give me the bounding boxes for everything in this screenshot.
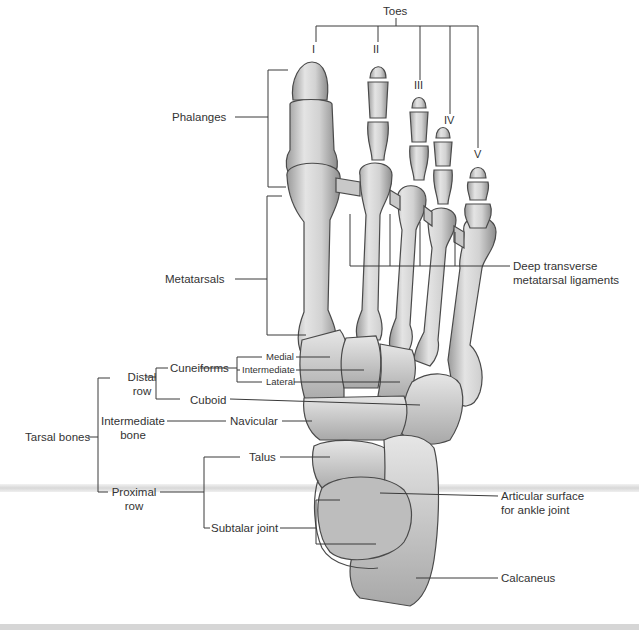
- label-distal-row: Distal row: [117, 370, 167, 398]
- label-medial-cuneiform: Medial: [266, 351, 294, 363]
- label-navicular: Navicular: [230, 414, 278, 428]
- label-articular-surface: Articular surface for ankle joint: [501, 489, 584, 517]
- toe-3-distal: [412, 98, 426, 109]
- label-subtalar-joint: Subtalar joint: [211, 521, 278, 535]
- medial-cuneiform: [300, 330, 348, 402]
- label-calcaneus: Calcaneus: [501, 571, 555, 585]
- label-lateral-cuneiform: Lateral: [266, 376, 295, 388]
- cuboid: [401, 374, 462, 444]
- toe-5-distal: [470, 168, 486, 179]
- metatarsal-1: [287, 163, 340, 350]
- metatarsal-2: [356, 163, 392, 340]
- toe-2-middle: [368, 82, 388, 118]
- toe-4-distal: [436, 128, 450, 139]
- label-metatarsals: Metatarsals: [165, 272, 224, 286]
- intermediate-cuneiform: [341, 336, 381, 388]
- ligament: [424, 206, 432, 226]
- label-talus: Talus: [249, 450, 276, 464]
- toe-label-5: V: [474, 148, 481, 160]
- label-intermediate-cuneiform: Intermediate: [242, 364, 295, 376]
- label-intermediate-bone: Intermediate bone: [100, 414, 166, 442]
- label-cuboid: Cuboid: [190, 393, 226, 407]
- toe-label-2: II: [373, 43, 379, 55]
- toe-label-4: IV: [444, 114, 454, 126]
- label-tarsal-bones: Tarsal bones: [25, 430, 90, 444]
- bones: [286, 62, 496, 606]
- toe-5-proximal: [465, 204, 492, 228]
- foot-bones-diagram: I II III IV V Toes Phalanges Metatarsals…: [0, 0, 639, 630]
- toe-1-proximal-phalanx: [286, 100, 337, 173]
- foot-illustration: [0, 0, 639, 630]
- toe-label-3: III: [414, 79, 423, 91]
- toe-label-1: I: [312, 43, 315, 55]
- label-toes: Toes: [383, 4, 407, 18]
- toe-2-distal: [370, 67, 386, 78]
- label-proximal-row: Proximal row: [106, 485, 162, 513]
- toe-3-proximal: [410, 146, 429, 180]
- toe-4-middle: [434, 142, 452, 166]
- toe-4-proximal: [434, 170, 453, 204]
- toe-1-distal-phalanx: [292, 62, 327, 100]
- toe-5-middle: [467, 182, 488, 200]
- label-deep-transverse-metatarsal-ligaments: Deep transverse metatarsal ligaments: [513, 259, 619, 287]
- label-cuneiforms: Cuneiforms: [170, 361, 229, 375]
- metatarsal-3: [389, 186, 426, 352]
- articular-surface: [318, 477, 412, 560]
- toe-3-middle: [410, 112, 428, 142]
- label-phalanges: Phalanges: [172, 110, 226, 124]
- toe-2-proximal: [368, 122, 389, 160]
